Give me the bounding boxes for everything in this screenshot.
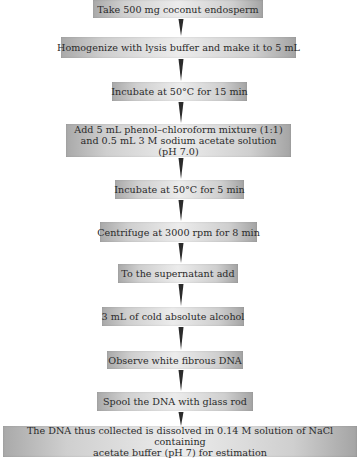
step-4-box: Add 5 mL phenol–chloroform mixture (1:1)… bbox=[66, 124, 291, 157]
arrow-down-icon bbox=[178, 200, 184, 221]
step-8-label: 3 mL of cold absolute alcohol bbox=[102, 311, 245, 322]
step-11-box: The DNA thus collected is dissolved in 0… bbox=[3, 426, 357, 457]
step-4-label-line1: Add 5 mL phenol–chloroform mixture (1:1) bbox=[74, 124, 282, 135]
step-1-box: Take 500 mg coconut endosperm bbox=[93, 0, 263, 18]
arrow-down-icon bbox=[178, 59, 184, 81]
step-1-label: Take 500 mg coconut endosperm bbox=[97, 4, 258, 15]
arrow-down-icon bbox=[178, 102, 184, 123]
step-9-box: Observe white fibrous DNA bbox=[107, 351, 243, 369]
step-7-box: To the supernatant add bbox=[118, 264, 238, 283]
step-3-label: Incubate at 50°C for 15 min bbox=[111, 86, 248, 97]
step-7-label: To the supernatant add bbox=[121, 268, 234, 279]
arrow-down-icon bbox=[178, 243, 184, 263]
step-10-label: Spool the DNA with glass rod bbox=[103, 396, 247, 407]
step-5-box: Incubate at 50°C for 5 min bbox=[115, 180, 244, 199]
step-4-label-line2: and 0.5 mL 3 M sodium acetate solution (… bbox=[70, 135, 287, 157]
step-2-label: Homogenize with lysis buffer and make it… bbox=[57, 42, 300, 53]
step-2-box: Homogenize with lysis buffer and make it… bbox=[61, 37, 296, 58]
step-11-label-line2: acetate buffer (pH 7) for estimation bbox=[93, 447, 267, 458]
arrow-down-icon bbox=[178, 284, 184, 306]
step-5-label: Incubate at 50°C for 5 min bbox=[114, 184, 244, 195]
arrow-down-icon bbox=[178, 19, 184, 36]
step-10-box: Spool the DNA with glass rod bbox=[97, 392, 253, 411]
step-3-box: Incubate at 50°C for 15 min bbox=[112, 82, 247, 101]
step-6-box: Centrifuge at 3000 rpm for 8 min bbox=[100, 222, 257, 242]
arrow-down-icon bbox=[178, 158, 184, 179]
arrow-down-icon bbox=[178, 327, 184, 350]
step-11-label-line1: The DNA thus collected is dissolved in 0… bbox=[7, 425, 353, 447]
step-6-label: Centrifuge at 3000 rpm for 8 min bbox=[97, 227, 260, 238]
step-8-box: 3 mL of cold absolute alcohol bbox=[102, 307, 244, 326]
step-9-label: Observe white fibrous DNA bbox=[108, 355, 241, 366]
arrow-down-icon bbox=[178, 412, 184, 426]
arrow-down-icon bbox=[178, 370, 184, 391]
